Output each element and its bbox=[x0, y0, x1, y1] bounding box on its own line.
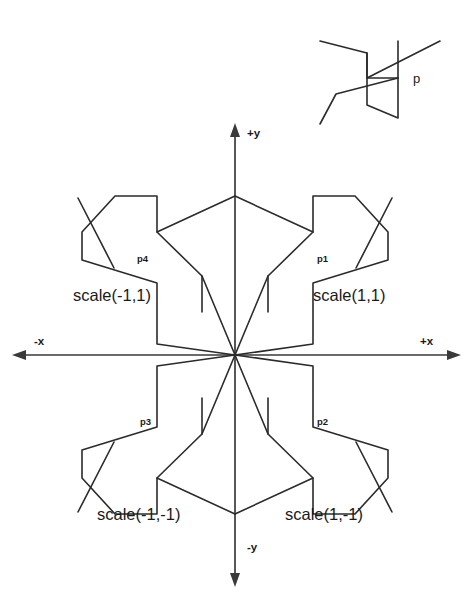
glyph-q1-base bbox=[235, 276, 268, 355]
glyph-q1-outer-arm bbox=[235, 196, 313, 232]
glyph-q1-wing bbox=[356, 198, 392, 268]
glyph-q2-outer-arm bbox=[157, 196, 235, 232]
scale-label-q4: scale(1,-1) bbox=[285, 505, 363, 523]
glyph-q4-wing bbox=[356, 442, 392, 512]
scale-label-q3: scale(-1,-1) bbox=[97, 505, 180, 523]
point-label-p2: p2 bbox=[317, 416, 328, 427]
point-label-p3: p3 bbox=[140, 416, 151, 427]
reference-glyph-path-left bbox=[320, 78, 398, 124]
scale-transform-diagram: p +y -y -x +x p1 scale(1,1) bbox=[0, 0, 473, 602]
y-axis-positive-label: +y bbox=[247, 127, 261, 139]
glyph-quadrant-1 bbox=[235, 196, 392, 355]
scale-label-q1: scale(1,1) bbox=[313, 286, 385, 304]
glyph-q2-base bbox=[202, 276, 235, 355]
x-axis-negative-label: -x bbox=[34, 335, 45, 347]
point-label-p4: p4 bbox=[137, 253, 149, 264]
glyph-quadrant-2 bbox=[78, 196, 235, 355]
point-label-p1: p1 bbox=[317, 253, 329, 264]
glyph-q2-path bbox=[82, 196, 235, 355]
glyph-q3-wing bbox=[78, 442, 114, 512]
diagram-canvas: p +y -y -x +x p1 scale(1,1) bbox=[0, 0, 473, 602]
reference-glyph bbox=[320, 41, 440, 124]
x-axis-positive-arrowhead bbox=[447, 350, 461, 360]
reference-glyph-path-arm bbox=[367, 41, 440, 78]
y-axis-negative-label: -y bbox=[247, 541, 258, 553]
x-axis-positive-label: +x bbox=[420, 335, 434, 347]
glyph-q3-path bbox=[82, 355, 235, 514]
glyph-q4-base bbox=[235, 355, 268, 434]
glyph-quadrant-3 bbox=[78, 355, 235, 514]
glyph-q4-path bbox=[235, 355, 388, 514]
scale-label-q2: scale(-1,1) bbox=[73, 286, 151, 304]
y-axis-positive-arrowhead bbox=[230, 123, 240, 137]
x-axis-negative-arrowhead bbox=[12, 350, 26, 360]
glyph-q2-wing bbox=[78, 198, 114, 268]
reference-glyph-label: p bbox=[413, 71, 420, 86]
glyph-quadrant-4 bbox=[235, 355, 392, 514]
y-axis-negative-arrowhead bbox=[230, 573, 240, 587]
reference-glyph-path bbox=[320, 41, 398, 78]
glyph-q3-base bbox=[202, 355, 235, 434]
glyph-q1-path bbox=[235, 196, 388, 355]
